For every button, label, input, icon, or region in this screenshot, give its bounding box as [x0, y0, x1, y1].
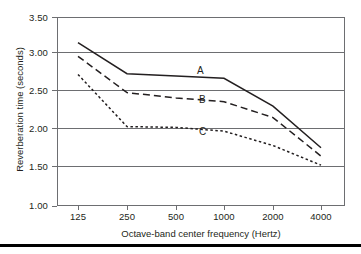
bottom-rule [0, 244, 361, 247]
x-tick-mark-500 [176, 206, 177, 210]
plot-area [57, 17, 345, 206]
x-tick-label-4000: 4000 [301, 211, 341, 222]
y-tick-label-2-00: 2.00 [18, 123, 48, 134]
series-label-a: A [197, 65, 204, 76]
x-tick-label-500: 500 [156, 211, 196, 222]
series-label-b: B [199, 94, 206, 105]
y-tick-label-3-00: 3.00 [18, 47, 48, 58]
gridline-3-00 [58, 52, 344, 53]
x-axis-title: Octave-band center frequency (Hertz) [57, 228, 345, 239]
y-tick-label-1-00: 1.00 [18, 200, 48, 211]
chart-figure: Reverberation time (seconds) 3.50 3.00 2… [0, 0, 361, 254]
x-tick-label-1000: 1000 [204, 211, 244, 222]
gridline-2-50 [58, 90, 344, 91]
x-tick-mark-4000 [321, 206, 322, 210]
series-label-c: C [199, 126, 206, 137]
x-tick-label-250: 250 [107, 211, 147, 222]
y-tick-label-3-50: 3.50 [18, 12, 48, 23]
x-tick-label-125: 125 [58, 211, 98, 222]
x-tick-mark-250 [127, 206, 128, 210]
y-tick-mark-1-00 [52, 206, 57, 207]
x-tick-mark-2000 [273, 206, 274, 210]
x-tick-mark-1000 [224, 206, 225, 210]
gridline-1-50 [58, 166, 344, 167]
x-tick-mark-125 [78, 206, 79, 210]
x-tick-label-2000: 2000 [253, 211, 293, 222]
y-tick-label-2-50: 2.50 [18, 85, 48, 96]
y-tick-label-1-50: 1.50 [18, 161, 48, 172]
